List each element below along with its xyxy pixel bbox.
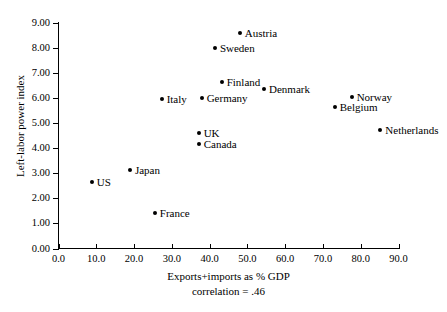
x-tick-label: 30.0 (152, 253, 192, 265)
y-tick-mark (53, 223, 59, 224)
x-tick-mark (134, 244, 135, 249)
y-tick-label: 2.00 (2, 193, 50, 204)
data-point-label: Denmark (269, 84, 310, 95)
data-point-label: Italy (167, 94, 187, 105)
data-point-label: Norway (357, 92, 392, 103)
data-point-label: Netherlands (385, 125, 438, 136)
data-point-label: Belgium (340, 102, 378, 113)
y-axis-title: Left-labor power index (14, 46, 26, 206)
data-point-label: US (97, 177, 111, 188)
data-point-label: France (160, 208, 190, 219)
scatter-plot-figure: 0.001.002.003.004.005.006.007.008.009.00… (0, 0, 447, 312)
x-tick-mark (172, 244, 173, 249)
y-tick-label: 9.00 (2, 18, 50, 29)
y-tick-mark (53, 249, 59, 250)
data-point-marker (160, 97, 164, 101)
y-tick-label: 7.00 (2, 68, 50, 79)
data-point-marker (238, 31, 242, 35)
x-tick-label: 70.0 (303, 253, 343, 265)
data-point-marker (197, 131, 201, 135)
y-tick-mark (53, 98, 59, 99)
x-tick-mark (210, 244, 211, 249)
x-tick-mark (323, 244, 324, 249)
x-tick-label: 10.0 (76, 253, 116, 265)
x-tick-label: 0.0 (39, 253, 79, 265)
data-point-marker (153, 211, 157, 215)
y-tick-mark (53, 23, 59, 24)
data-point-label: Canada (204, 139, 237, 150)
data-point-label: Sweden (220, 43, 255, 54)
y-tick-label: 3.00 (2, 168, 50, 179)
correlation-annotation: correlation = .46 (58, 285, 399, 297)
data-point-marker (128, 168, 132, 172)
x-tick-label: 40.0 (190, 253, 230, 265)
data-point-label: Finland (227, 77, 261, 88)
y-tick-mark (53, 198, 59, 199)
data-point-marker (262, 87, 266, 91)
x-tick-label: 90.0 (379, 253, 419, 265)
y-tick-mark (53, 48, 59, 49)
x-axis-title: Exports+imports as % GDP (58, 270, 399, 282)
y-tick-mark (53, 123, 59, 124)
y-tick-label: 4.00 (2, 143, 50, 154)
x-tick-mark (361, 244, 362, 249)
data-point-marker (350, 95, 354, 99)
x-tick-mark (96, 244, 97, 249)
y-tick-mark (53, 148, 59, 149)
x-tick-mark (59, 244, 60, 249)
data-point-label: UK (204, 128, 220, 139)
data-point-marker (333, 105, 337, 109)
x-tick-mark (247, 244, 248, 249)
data-point-marker (213, 46, 217, 50)
y-tick-label: 5.00 (2, 118, 50, 129)
x-tick-mark (285, 244, 286, 249)
x-tick-label: 20.0 (114, 253, 154, 265)
data-point-marker (197, 142, 201, 146)
data-point-label: Germany (207, 93, 248, 104)
data-point-marker (220, 80, 224, 84)
data-point-label: Austria (245, 28, 277, 39)
data-point-label: Japan (135, 165, 160, 176)
x-tick-mark (399, 244, 400, 249)
data-point-marker (200, 96, 204, 100)
y-tick-mark (53, 173, 59, 174)
data-point-marker (90, 180, 94, 184)
x-tick-label: 50.0 (227, 253, 267, 265)
y-tick-label: 8.00 (2, 43, 50, 54)
y-tick-label: 1.00 (2, 218, 50, 229)
y-tick-label: 6.00 (2, 93, 50, 104)
x-tick-label: 80.0 (341, 253, 381, 265)
x-tick-label: 60.0 (265, 253, 305, 265)
y-tick-mark (53, 73, 59, 74)
y-axis-line (58, 22, 59, 249)
x-axis-line (58, 248, 399, 249)
data-point-marker (378, 128, 382, 132)
